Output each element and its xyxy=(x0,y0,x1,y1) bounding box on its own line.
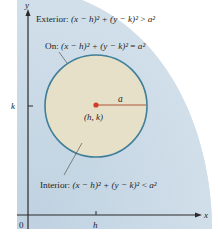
origin-label: 0 xyxy=(19,220,24,230)
interior-prefix: Interior: xyxy=(40,180,72,190)
interior-lhs: (x − h)² + (y − k)² xyxy=(72,180,139,190)
x-axis-label: x xyxy=(203,210,208,220)
center-label: (h, k) xyxy=(84,112,103,122)
exterior-prefix: Exterior: xyxy=(36,14,71,24)
on-lhs: (x − h)² + (y − k)² xyxy=(61,41,128,51)
y-axis-label: y xyxy=(24,0,29,10)
interior-rhs: a² xyxy=(149,180,157,190)
interior-equation: Interior: (x − h)² + (y − k)² < a² xyxy=(40,180,157,190)
radius-label: a xyxy=(118,94,123,104)
exterior-equation: Exterior: (x − h)² + (y − k)² > a² xyxy=(36,14,155,24)
exterior-lhs: (x − h)² + (y − k)² xyxy=(71,14,138,24)
on-relation: = xyxy=(128,41,138,51)
interior-relation: < xyxy=(139,180,149,190)
center-point xyxy=(93,102,98,107)
exterior-relation: > xyxy=(138,14,148,24)
y-tick-label: k xyxy=(11,101,16,111)
on-equation: On: (x − h)² + (y − k)² = a² xyxy=(45,41,145,51)
x-tick-label: h xyxy=(93,220,98,230)
on-prefix: On: xyxy=(45,41,61,51)
circle-regions-diagram: y x 0 h k a (h, k) Exterior: (x − h)² + … xyxy=(0,0,218,241)
exterior-rhs: a² xyxy=(148,14,156,24)
on-rhs: a² xyxy=(138,41,146,51)
